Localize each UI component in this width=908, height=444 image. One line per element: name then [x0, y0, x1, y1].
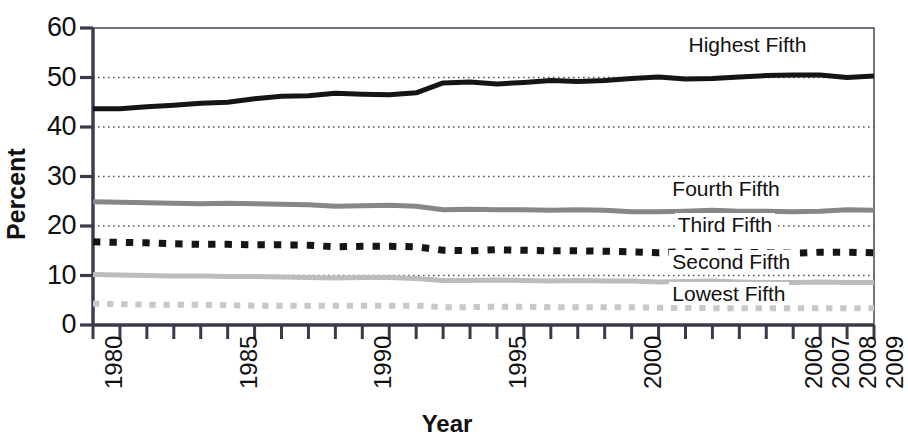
y-tick-label: 0 [61, 311, 76, 338]
x-tick-label: 1990 [371, 336, 395, 389]
y-tick-label: 50 [47, 64, 76, 91]
y-tick-label: 40 [47, 113, 76, 140]
series-line-highest-fifth [93, 75, 874, 109]
y-tick-label: 10 [47, 262, 76, 289]
x-tick-label: 2007 [829, 336, 853, 389]
x-axis-ticks [93, 325, 874, 339]
y-tick-label: 20 [47, 212, 76, 239]
x-tick-label: 1980 [102, 336, 126, 389]
x-tick-label: 1985 [237, 336, 261, 389]
x-tick-label: 1995 [506, 336, 530, 389]
x-tick-label: 2000 [641, 336, 665, 389]
series-label-third-fifth: Third Fifth [675, 213, 776, 236]
series-line-fourth-fifth [93, 202, 874, 212]
x-tick-label: 2009 [883, 336, 907, 389]
series-label-highest-fifth: Highest Fifth [685, 33, 809, 56]
x-tick-label: 2006 [802, 336, 826, 389]
y-tick-label: 30 [47, 163, 76, 190]
x-tick-label: 2008 [856, 336, 880, 389]
series-label-second-fifth: Second Fifth [669, 250, 793, 273]
series-label-fourth-fifth: Fourth Fifth [669, 177, 782, 200]
y-tick-label: 60 [47, 14, 76, 41]
y-axis-ticks [80, 28, 93, 325]
series-label-lowest-fifth: Lowest Fifth [669, 282, 788, 305]
x-axis-title: Year [0, 412, 894, 436]
y-axis-title: Percent [4, 148, 29, 240]
